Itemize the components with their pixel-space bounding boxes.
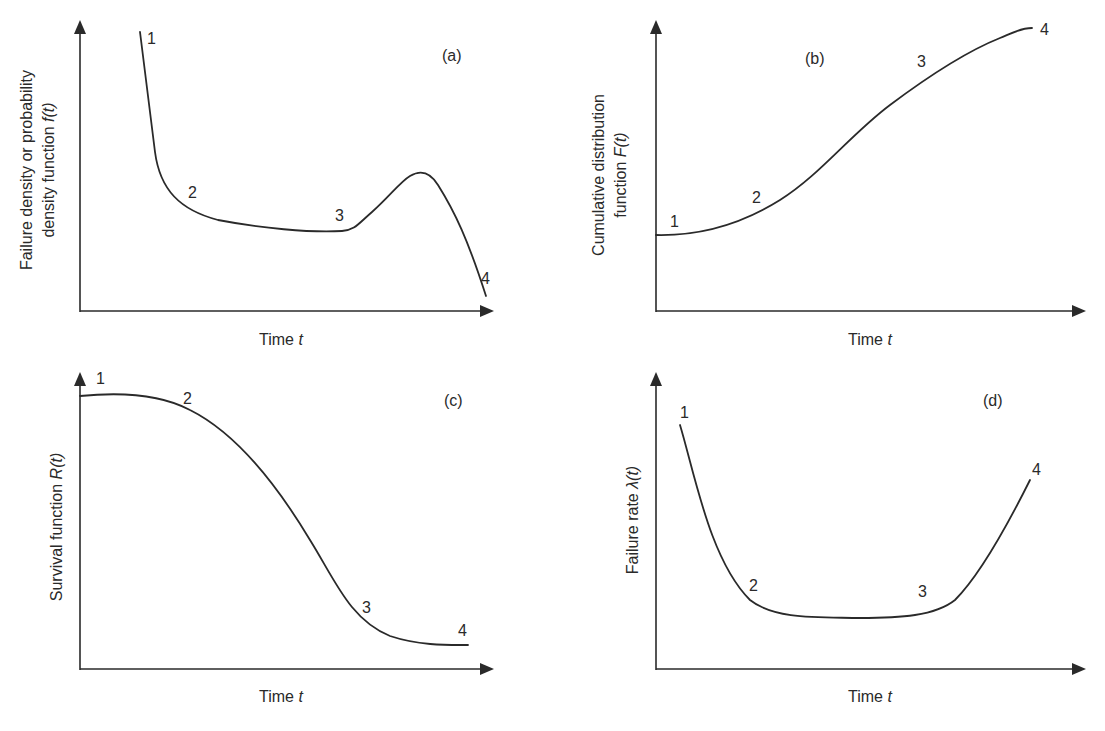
point-label-4: 4 — [458, 622, 467, 639]
point-label-3: 3 — [335, 207, 344, 224]
y-axis-label: Survival function R(t) — [48, 453, 65, 602]
x-axis-arrow-icon — [480, 663, 494, 675]
panel-tag: (a) — [442, 47, 462, 64]
point-label-1: 1 — [680, 404, 689, 421]
y-axis-label: Cumulative distribution function F(t) — [590, 94, 629, 256]
curve-R — [80, 394, 468, 645]
panel-tag: (c) — [444, 392, 463, 409]
panel-a: 1 2 3 4 (a) Time t Failure density or pr… — [18, 20, 494, 348]
y-axis-arrow-icon — [74, 20, 86, 34]
curve-F — [656, 28, 1032, 235]
x-axis-label: Time t — [848, 331, 892, 348]
y-axis-label: Failure density or probability density f… — [18, 70, 57, 270]
x-axis-label: Time t — [259, 331, 303, 348]
point-label-2: 2 — [183, 390, 192, 407]
point-label-1: 1 — [96, 370, 105, 387]
point-label-2: 2 — [749, 577, 758, 594]
panel-d: 1 2 3 4 (d) Time t Failure rate λ(t) — [624, 372, 1086, 705]
y-axis-arrow-icon — [650, 20, 662, 34]
point-label-4: 4 — [481, 270, 490, 287]
point-label-1: 1 — [147, 30, 156, 47]
svg-text:function F(t): function F(t) — [612, 132, 629, 217]
curve-lambda — [680, 425, 1030, 618]
svg-text:Failure rate λ(t): Failure rate λ(t) — [624, 466, 641, 574]
x-axis-arrow-icon — [480, 305, 494, 317]
point-label-3: 3 — [917, 53, 926, 70]
svg-text:density function f(t): density function f(t) — [40, 102, 57, 237]
panel-c: 1 2 3 4 (c) Time t Survival function R(t… — [48, 370, 494, 705]
panel-tag: (b) — [805, 50, 825, 67]
y-axis-arrow-icon — [650, 372, 662, 386]
svg-text:Cumulative distribution: Cumulative distribution — [590, 94, 607, 256]
svg-text:Failure density or probability: Failure density or probability — [18, 70, 35, 270]
panel-b: 1 2 3 4 (b) Time t Cumulative distributi… — [590, 20, 1086, 348]
point-label-4: 4 — [1032, 461, 1041, 478]
point-label-3: 3 — [918, 583, 927, 600]
point-label-3: 3 — [362, 599, 371, 616]
panel-tag: (d) — [983, 392, 1003, 409]
point-label-2: 2 — [752, 189, 761, 206]
x-axis-arrow-icon — [1072, 305, 1086, 317]
svg-text:Survival function R(t): Survival function R(t) — [48, 453, 65, 602]
y-axis-label: Failure rate λ(t) — [624, 466, 641, 574]
y-axis-arrow-icon — [74, 372, 86, 386]
x-axis-label: Time t — [259, 688, 303, 705]
point-label-4: 4 — [1040, 21, 1049, 38]
point-label-1: 1 — [670, 213, 679, 230]
reliability-functions-figure: 1 2 3 4 (a) Time t Failure density or pr… — [0, 0, 1105, 731]
point-label-2: 2 — [188, 184, 197, 201]
x-axis-arrow-icon — [1072, 663, 1086, 675]
curve-f — [140, 32, 486, 296]
x-axis-label: Time t — [848, 688, 892, 705]
